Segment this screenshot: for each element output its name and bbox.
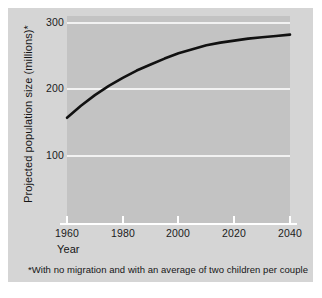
x-tick-label-1980: 1980 bbox=[103, 227, 143, 239]
x-axis-tick-labels: 1960 1980 2000 2020 2040 bbox=[0, 227, 322, 243]
x-axis-title: Year bbox=[57, 243, 80, 255]
chart-figure: 300 200 100 1960 1980 2000 2020 2040 Pro… bbox=[0, 0, 322, 298]
x-tick-label-2020: 2020 bbox=[214, 227, 254, 239]
chart-footnote: *With no migration and with an average o… bbox=[28, 264, 308, 275]
x-tick-2040 bbox=[289, 216, 291, 223]
x-tick-label-2040: 2040 bbox=[270, 227, 310, 239]
x-tick-1960 bbox=[66, 216, 68, 223]
x-axis-line bbox=[60, 223, 297, 225]
x-tick-label-1960: 1960 bbox=[47, 227, 87, 239]
x-tick-1980 bbox=[122, 216, 124, 223]
x-tick-2000 bbox=[177, 216, 179, 223]
population-line bbox=[67, 35, 290, 118]
y-axis-title: Projected population size (millions)* bbox=[22, 9, 34, 219]
x-tick-2020 bbox=[233, 216, 235, 223]
population-curve bbox=[67, 16, 290, 223]
x-tick-label-2000: 2000 bbox=[158, 227, 198, 239]
